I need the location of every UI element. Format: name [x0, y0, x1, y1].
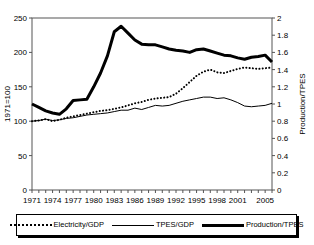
- x-axis-tick-label: 1980: [85, 196, 103, 205]
- y2-axis-tick-label: 0: [277, 186, 282, 195]
- legend-item-production-tpes: Production/TPES: [202, 221, 304, 229]
- dotted-line-swatch-icon: [10, 224, 52, 226]
- y-axis-tick-label: 250: [14, 14, 28, 23]
- y-axis-tick-label: 50: [18, 152, 27, 161]
- x-axis-tick-label: 1992: [167, 196, 185, 205]
- y2-axis-tick-label: 1.2: [277, 83, 289, 92]
- y2-axis-tick-label: 1.8: [277, 31, 289, 40]
- x-axis-tick-label: 1971: [23, 196, 41, 205]
- thin-line-swatch-icon: [112, 225, 154, 226]
- legend-label-tpes-gdp: TPES/GDP: [156, 221, 194, 229]
- series-line-electricity-gdp: [32, 68, 272, 122]
- chart-plot-area: 05010015020025000.20.40.60.811.21.41.61.…: [0, 0, 314, 205]
- y2-axis-tick-label: 1.4: [277, 66, 289, 75]
- x-axis-tick-label: 1989: [147, 196, 165, 205]
- x-axis-tick-label: 1983: [105, 196, 123, 205]
- y2-axis-tick-label: 1.6: [277, 48, 289, 57]
- legend-label-electricity-gdp: Electricity/GDP: [54, 221, 104, 229]
- x-axis-tick-label: 2005: [256, 196, 274, 205]
- x-axis-tick-label: 2001: [229, 196, 247, 205]
- y2-axis-tick-label: 0.8: [277, 117, 289, 126]
- chart-legend: Electricity/GDP TPES/GDP Production/TPES: [16, 214, 297, 236]
- thick-line-swatch-icon: [202, 224, 244, 227]
- series-line-production-tpes: [32, 26, 272, 114]
- y2-axis-title: Production/TPES: [298, 73, 307, 134]
- y2-axis-tick-label: 2: [277, 14, 282, 23]
- legend-item-tpes-gdp: TPES/GDP: [112, 221, 194, 229]
- y-axis-tick-label: 200: [14, 48, 28, 57]
- line-chart-svg: 05010015020025000.20.40.60.811.21.41.61.…: [0, 0, 314, 205]
- y-axis-title: 1971=100: [3, 86, 12, 122]
- x-axis-tick-label: 1974: [44, 196, 62, 205]
- x-axis-tick-label: 1995: [188, 196, 206, 205]
- y2-axis-tick-label: 0.4: [277, 152, 289, 161]
- y-axis-tick-label: 100: [14, 117, 28, 126]
- y-axis-tick-label: 150: [14, 83, 28, 92]
- legend-item-electricity-gdp: Electricity/GDP: [10, 221, 104, 229]
- chart-figure: 05010015020025000.20.40.60.811.21.41.61.…: [0, 0, 314, 245]
- x-axis-tick-label: 1998: [208, 196, 226, 205]
- y2-axis-tick-label: 1: [277, 100, 282, 109]
- x-axis-tick-label: 1986: [126, 196, 144, 205]
- y2-axis-tick-label: 0.6: [277, 134, 289, 143]
- legend-label-production-tpes: Production/TPES: [246, 221, 304, 229]
- y2-axis-tick-label: 0.2: [277, 169, 289, 178]
- x-axis-tick-label: 1977: [64, 196, 82, 205]
- y-axis-tick-label: 0: [23, 186, 28, 195]
